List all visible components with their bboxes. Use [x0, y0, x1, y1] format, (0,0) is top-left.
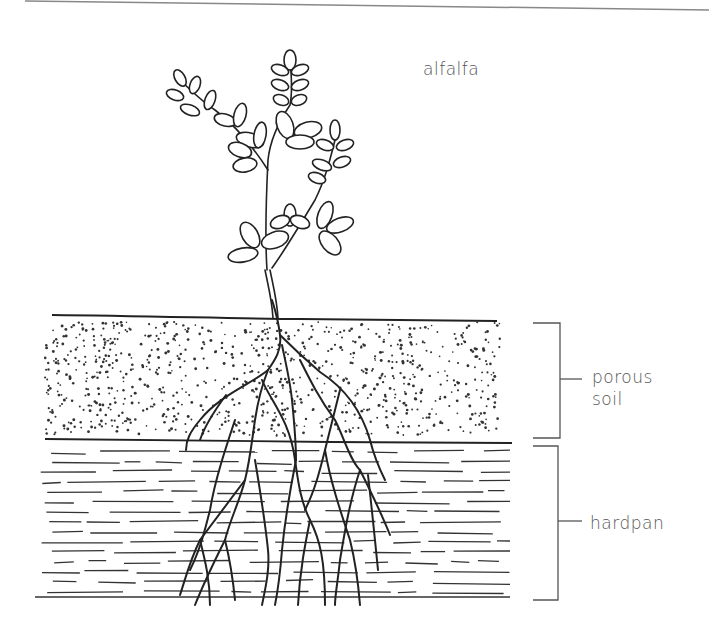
porous-soil-label: porous soil [592, 366, 653, 410]
alfalfa-plant [165, 50, 356, 318]
porous-soil-label-line1: porous [592, 366, 653, 388]
hardpan-label: hardpan [590, 512, 664, 534]
hardpan-layer [35, 450, 510, 597]
root-system [180, 300, 390, 605]
alfalfa-root-diagram [0, 0, 709, 635]
top-rule [25, 1, 709, 10]
porous-soil-layer [44, 315, 512, 443]
hardpan-bracket [533, 446, 582, 600]
porous-soil-label-line2: soil [592, 388, 653, 410]
alfalfa-label: alfalfa [423, 58, 479, 80]
porous-soil-bracket [533, 323, 582, 438]
